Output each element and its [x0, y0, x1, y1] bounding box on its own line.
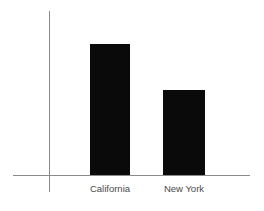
bar-california [90, 44, 130, 175]
bar-chart: California New York [0, 0, 264, 211]
x-axis-line [13, 175, 250, 176]
x-tick-label-new-york: New York [139, 182, 229, 195]
x-axis-tick-labels: California New York [0, 182, 264, 198]
bar-new-york [163, 90, 205, 175]
plot-area [0, 0, 264, 175]
